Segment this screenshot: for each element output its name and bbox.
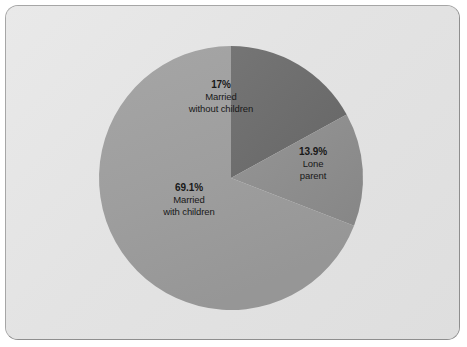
slice-percent-married-without-children: 17% (161, 79, 281, 91)
chart-plot-area: 17% Married without children 13.9% Lone … (0, 0, 467, 347)
pie-svg (0, 0, 467, 347)
slice-name-line1-married-with-children: Married (129, 194, 249, 206)
slice-label-married-without-children: 17% Married without children (161, 79, 281, 114)
slice-name-line2-married-without-children: without children (161, 103, 281, 115)
slice-label-lone-parent: 13.9% Lone parent (268, 146, 358, 181)
pie-chart-figure: 17% Married without children 13.9% Lone … (0, 0, 467, 347)
slice-label-married-with-children: 69.1% Married with children (129, 182, 249, 217)
slice-name-line1-lone-parent: Lone (268, 158, 358, 170)
slice-percent-lone-parent: 13.9% (268, 146, 358, 158)
slice-percent-married-with-children: 69.1% (129, 182, 249, 194)
slice-name-line2-lone-parent: parent (268, 170, 358, 182)
slice-name-line1-married-without-children: Married (161, 91, 281, 103)
slice-name-line2-married-with-children: with children (129, 206, 249, 218)
